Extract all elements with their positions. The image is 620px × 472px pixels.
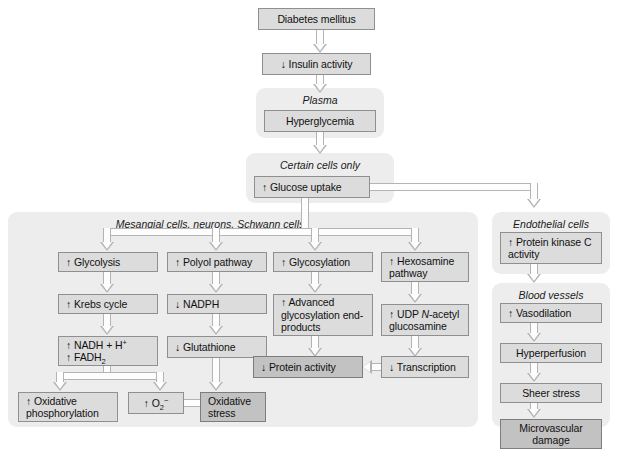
box-transcription-label: ↓ Transcription (389, 361, 456, 374)
arrowhead-stress-from-glutathione (209, 382, 223, 391)
box-nadh-fadh-label: ↑ NADH + H+ ↑ FADH2 (66, 339, 127, 364)
arrowhead-nadh (100, 326, 114, 335)
connector-insulin-to-plasma (316, 75, 324, 84)
connector-glucose-right (370, 183, 538, 191)
box-oxidative-stress: Oxidative stress (200, 392, 266, 422)
connector-vasodilation-hyperperfusion (530, 323, 538, 333)
panel-certain-cells-title: Certain cells only (246, 159, 394, 171)
box-protein-kinase-c: ↑ Protein kinase C activity (500, 232, 602, 264)
connector-dm-to-insulin (316, 30, 324, 44)
arrowhead-sheer-stress (527, 373, 541, 382)
box-glucose-uptake: ↑ Glucose uptake (254, 176, 370, 198)
box-glycolysis: ↑ Glycolysis (58, 252, 158, 272)
box-vasodilation: ↑ Vasodilation (500, 303, 602, 323)
box-advanced-glycosylation-end-products: ↑ Advanced glycosylation end-products (273, 294, 373, 336)
connector-glucose-down (301, 198, 309, 228)
connector-to-superoxide (156, 372, 164, 382)
box-protein-activity-label: ↓ Protein activity (261, 361, 336, 374)
box-glutathione-label: ↓ Glutathione (175, 341, 236, 354)
box-diabetes-mellitus-label: Diabetes mellitus (277, 13, 355, 26)
box-hexosamine-pathway-label: ↑ Hexosamine pathway (389, 255, 468, 280)
box-glycosylation-label: ↑ Glycosylation (281, 256, 350, 269)
connector-glutathione-stress (212, 358, 220, 382)
arrowhead-glutathione (209, 326, 223, 335)
arrowhead-age (308, 284, 322, 293)
connector-age-protein (311, 336, 319, 348)
connector-pkc-vasodilation (530, 264, 538, 274)
box-sheer-stress-label: Sheer stress (522, 387, 580, 400)
box-age-label: ↑ Advanced glycosylation end-products (281, 296, 372, 334)
box-oxidative-phosphorylation: ↑ Oxidative phosphorylation (18, 392, 118, 422)
box-glutathione: ↓ Glutathione (167, 336, 267, 358)
arrowhead-insulin-to-plasma (313, 84, 327, 93)
panel-plasma-title: Plasma (256, 94, 384, 106)
arrowhead-dm-to-insulin (313, 44, 327, 53)
box-oxidative-stress-label: Oxidative stress (208, 395, 265, 420)
connector-hyperglycemia-to-certain (316, 132, 324, 145)
arrowhead-protein-from-transcription (363, 360, 372, 374)
connector-superoxide-stress (184, 399, 200, 407)
box-hyperperfusion-label: Hyperperfusion (516, 347, 586, 360)
box-glycolysis-label: ↑ Glycolysis (66, 256, 120, 269)
arrowhead-udp (408, 294, 422, 303)
arrowhead-nadph (209, 284, 223, 293)
udp-part-a: ↑ UDP (389, 308, 421, 320)
box-krebs-cycle: ↑ Krebs cycle (58, 294, 158, 314)
box-hyperglycemia: Hyperglycemia (264, 110, 376, 132)
box-polyol-pathway: ↑ Polyol pathway (167, 252, 267, 272)
connector-nadph-glutathione (212, 314, 220, 326)
box-vasodilation-label: ↑ Vasodilation (508, 307, 571, 320)
panel-endothelial-title: Endothelial cells (492, 218, 610, 230)
connector-drop-hexosamine (411, 228, 419, 242)
connector-drop-polyol (212, 228, 220, 242)
box-polyol-pathway-label: ↑ Polyol pathway (175, 256, 252, 269)
box-diabetes-mellitus: Diabetes mellitus (258, 8, 375, 30)
connector-udp-transcription (411, 336, 419, 348)
superoxide-o: ↑ O (144, 397, 160, 409)
connector-glucose-right-down (530, 183, 538, 199)
box-glucose-uptake-label: ↑ Glucose uptake (262, 181, 342, 194)
connector-hyperperfusion-sheer (530, 363, 538, 373)
box-superoxide-label: ↑ O2− (144, 397, 168, 410)
arrowhead-oxphos (53, 382, 67, 391)
fadh-line: ↑ FADH (66, 351, 102, 363)
box-krebs-cycle-label: ↑ Krebs cycle (66, 298, 127, 311)
fadh-sub: 2 (102, 357, 106, 366)
box-udp-n-acetyl-glucosamine: ↑ UDP N-acetyl glucosamine (381, 304, 469, 336)
box-protein-activity: ↓ Protein activity (253, 356, 363, 378)
connector-glycosylation-age (311, 272, 319, 284)
arrowhead-microvascular (527, 409, 541, 418)
box-oxidative-phosphorylation-label: ↑ Oxidative phosphorylation (26, 395, 117, 420)
box-hexosamine-pathway: ↑ Hexosamine pathway (381, 252, 469, 282)
connector-drop-glycolysis (103, 228, 111, 242)
box-nadh-fadh: ↑ NADH + H+ ↑ FADH2 (58, 336, 158, 366)
box-microvascular-damage-label: Microvascular damage (501, 422, 601, 447)
arrowhead-krebs (100, 284, 114, 293)
connector-hexosamine-udp (411, 282, 419, 294)
arrowhead-hyperglycemia-to-certain (313, 145, 327, 154)
box-superoxide: ↑ O2− (128, 392, 184, 414)
arrowhead-glycosylation (308, 242, 322, 251)
nadh-line: ↑ NADH + H (66, 339, 122, 351)
connector-distribution-bar (103, 228, 415, 236)
arrowhead-vasodilation-panel (527, 274, 541, 283)
box-nadph: ↓ NADPH (167, 294, 267, 314)
box-glycosylation: ↑ Glycosylation (273, 252, 373, 272)
box-microvascular-damage: Microvascular damage (500, 419, 602, 449)
arrowhead-glycolysis (100, 242, 114, 251)
connector-polyol-nadph (212, 272, 220, 284)
box-udp-label: ↑ UDP N-acetyl glucosamine (389, 308, 468, 333)
arrowhead-hyperperfusion (527, 333, 541, 342)
box-sheer-stress: Sheer stress (500, 383, 602, 403)
udp-n-italic: N (421, 308, 428, 320)
box-hyperglycemia-label: Hyperglycemia (286, 115, 354, 128)
nadh-charge: + (122, 337, 126, 346)
arrowhead-polyol (209, 242, 223, 251)
panel-blood-vessels-title: Blood vessels (492, 289, 610, 301)
arrowhead-hexosamine (408, 242, 422, 251)
box-protein-kinase-c-label: ↑ Protein kinase C activity (508, 236, 601, 261)
connector-drop-glycosylation (311, 228, 319, 242)
box-transcription: ↓ Transcription (381, 356, 469, 378)
arrowhead-superoxide (153, 382, 167, 391)
arrowhead-endothelial (527, 199, 541, 208)
